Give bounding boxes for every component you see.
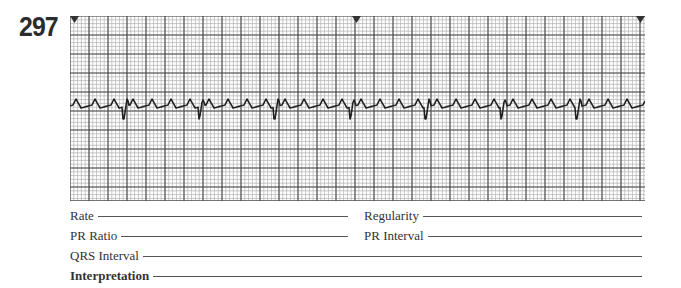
pr-interval-label: PR Interval [364,228,428,244]
ecg-strip [70,16,645,201]
regularity-input-line[interactable] [423,216,642,217]
rate-label: Rate [70,208,98,224]
pr-interval-input-line[interactable] [428,236,642,237]
regularity-label: Regularity [364,208,423,224]
pr-ratio-field[interactable]: PR Ratio [70,228,348,244]
qrs-interval-field[interactable]: QRS Interval [70,248,642,264]
rate-input-line[interactable] [98,216,348,217]
regularity-field[interactable]: Regularity [364,208,642,224]
grid-minor-lines [70,16,645,201]
interpretation-field[interactable]: Interpretation [70,268,642,284]
pr-interval-field[interactable]: PR Interval [364,228,642,244]
ecg-grid-and-trace [70,16,645,201]
interpretation-input-line[interactable] [153,276,642,277]
rate-field[interactable]: Rate [70,208,348,224]
ecg-trace [70,99,645,119]
pr-ratio-input-line[interactable] [121,236,348,237]
interpretation-label: Interpretation [70,268,153,284]
grid-major-lines [70,16,645,201]
strip-number: 297 [19,14,58,41]
qrs-interval-label: QRS Interval [70,248,143,264]
pr-ratio-label: PR Ratio [70,228,121,244]
qrs-interval-input-line[interactable] [143,256,642,257]
